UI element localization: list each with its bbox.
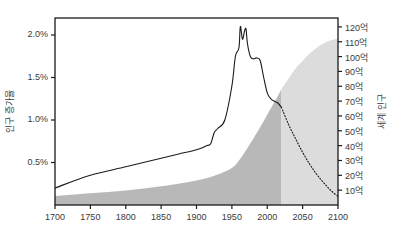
area-2 — [281, 39, 338, 205]
y-axis-right-tick-label: 50억 — [345, 125, 390, 138]
y-axis-right-tick-label: 70억 — [345, 95, 390, 108]
x-axis-tick-label: 1850 — [141, 212, 181, 222]
y-axis-right-tick-label: 10억 — [345, 184, 390, 197]
x-axis-tick-label: 2100 — [318, 212, 358, 222]
y-axis-right-tick-label: 40억 — [345, 140, 390, 153]
y-axis-right-tick-label: 20억 — [345, 169, 390, 182]
x-axis-tick-label: 2000 — [247, 212, 287, 222]
y-axis-left-tick-label: 0.5% — [7, 157, 48, 167]
population-areas — [55, 39, 338, 205]
x-axis-tick-label: 2050 — [283, 212, 323, 222]
y-axis-right-tick-label: 100억 — [345, 51, 390, 64]
y-axis-left-tick-label: 2.0% — [7, 29, 48, 39]
y-axis-left-title: 인구 증가율 — [3, 86, 16, 138]
y-axis-right-tick-label: 60억 — [345, 110, 390, 123]
x-axis-tick-label: 1800 — [106, 212, 146, 222]
x-axis-tick-label: 1900 — [177, 212, 217, 222]
area-1 — [55, 89, 281, 205]
x-axis-tick-label: 1700 — [35, 212, 75, 222]
y-axis-left-tick-label: 1.5% — [7, 72, 48, 82]
y-axis-right-tick-label: 80억 — [345, 80, 390, 93]
x-axis-tick-label: 1950 — [212, 212, 252, 222]
y-axis-left-tick-label: 1.0% — [7, 114, 48, 124]
y-axis-right-tick-label: 90억 — [345, 65, 390, 78]
y-axis-right-tick-label: 30억 — [345, 154, 390, 167]
population-growth-chart: 인구 증가율 세계 인구 170017501800185019001950200… — [0, 0, 399, 249]
y-axis-right-tick-label: 120억 — [345, 21, 390, 34]
x-axis-tick-label: 1750 — [70, 212, 110, 222]
y-axis-right-tick-label: 110억 — [345, 36, 390, 49]
